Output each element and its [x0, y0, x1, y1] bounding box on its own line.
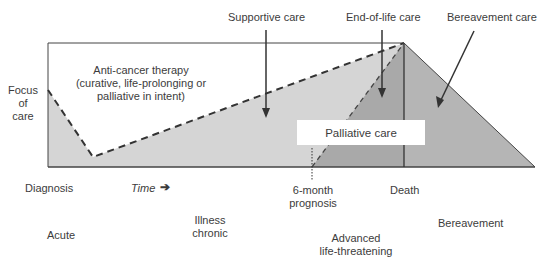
time-arrow-icon: ➔: [160, 181, 170, 194]
anti-cancer-therapy-label: Anti-cancer therapy (curative, life-prol…: [66, 64, 216, 103]
palliative-care-box: Palliative care: [297, 120, 425, 145]
palliative-care-label: Palliative care: [325, 127, 397, 139]
death-label: Death: [390, 184, 419, 197]
end-of-life-care-label: End-of-life care: [346, 11, 421, 24]
phase-advanced-label: Advanced life-threatening: [318, 232, 394, 258]
supportive-care-label: Supportive care: [228, 11, 305, 24]
time-label: Time: [131, 182, 155, 195]
six-month-prognosis-label: 6-month prognosis: [288, 184, 338, 210]
phase-illness-chronic-label: Illness chronic: [186, 214, 234, 240]
phase-bereavement-label: Bereavement: [438, 217, 503, 230]
focus-of-care-label: Focus of care: [6, 84, 40, 123]
phase-acute-label: Acute: [47, 229, 75, 242]
diagnosis-label: Diagnosis: [25, 182, 73, 195]
bereavement-care-label: Bereavement care: [447, 11, 537, 24]
